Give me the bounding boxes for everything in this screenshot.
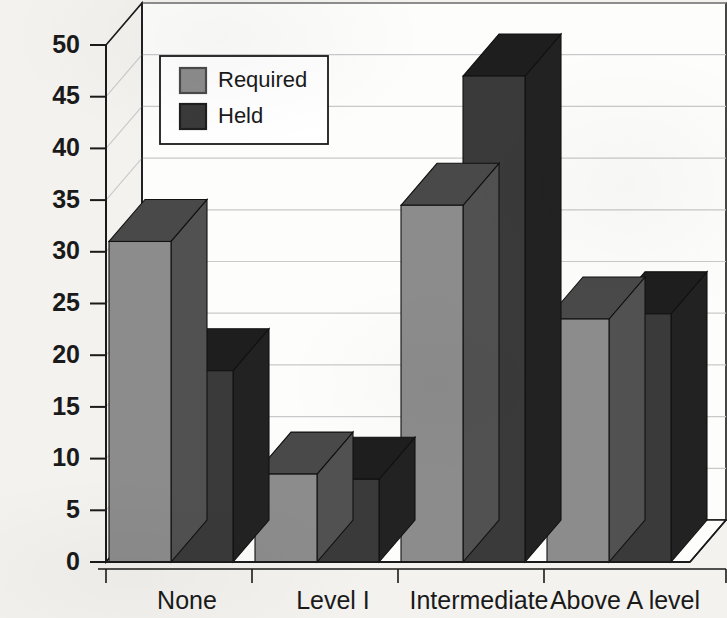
legend-swatch-required xyxy=(180,68,206,93)
legend: RequiredHeld xyxy=(160,56,328,144)
bar-side-face xyxy=(463,163,499,562)
bar-side-face xyxy=(525,34,561,562)
y-tick-label-50: 50 xyxy=(52,30,80,58)
x-axis-label-none: None xyxy=(157,586,217,614)
bar-group-level-i xyxy=(255,432,415,562)
bar-required-above-a-level xyxy=(547,277,645,562)
bar-side-face xyxy=(171,199,207,562)
legend-swatch-held xyxy=(180,104,206,129)
legend-label-required: Required xyxy=(218,67,307,92)
gridline-depth-35 xyxy=(106,158,142,200)
y-tick-label-35: 35 xyxy=(52,185,80,213)
y-tick-label-0: 0 xyxy=(66,547,80,575)
legend-entry-required[interactable]: Required xyxy=(180,67,307,93)
y-tick-label-40: 40 xyxy=(52,133,80,161)
y-tick-label-30: 30 xyxy=(52,236,80,264)
y-tick-label-45: 45 xyxy=(52,81,80,109)
gridline-depth-45 xyxy=(106,55,142,97)
chart-canvas: 05101520253035404550NoneLevel IIntermedi… xyxy=(0,0,727,618)
bar-chart: 05101520253035404550NoneLevel IIntermedi… xyxy=(0,0,727,618)
y-tick-label-10: 10 xyxy=(52,443,80,471)
legend-entry-held[interactable]: Held xyxy=(180,103,263,129)
y-tick-label-25: 25 xyxy=(52,288,80,316)
bar-group-above-a-level xyxy=(547,272,707,562)
x-axis: NoneLevel IIntermediateAbove A level xyxy=(98,569,726,614)
x-axis-label-above-a-level: Above A level xyxy=(550,586,700,614)
bar-side-face xyxy=(671,272,707,562)
legend-label-held: Held xyxy=(218,103,263,128)
gridline-depth-40 xyxy=(106,106,142,148)
bar-front-face xyxy=(109,241,171,562)
y-axis: 05101520253035404550 xyxy=(52,30,106,575)
bar-side-face xyxy=(609,277,645,562)
x-axis-label-intermediate: Intermediate xyxy=(410,586,549,614)
y-tick-label-20: 20 xyxy=(52,340,80,368)
bar-required-intermediate xyxy=(401,163,499,562)
x-axis-label-level-i: Level I xyxy=(296,586,370,614)
y-tick-label-15: 15 xyxy=(52,392,80,420)
y-tick-label-5: 5 xyxy=(66,495,80,523)
bar-required-none xyxy=(109,199,207,562)
